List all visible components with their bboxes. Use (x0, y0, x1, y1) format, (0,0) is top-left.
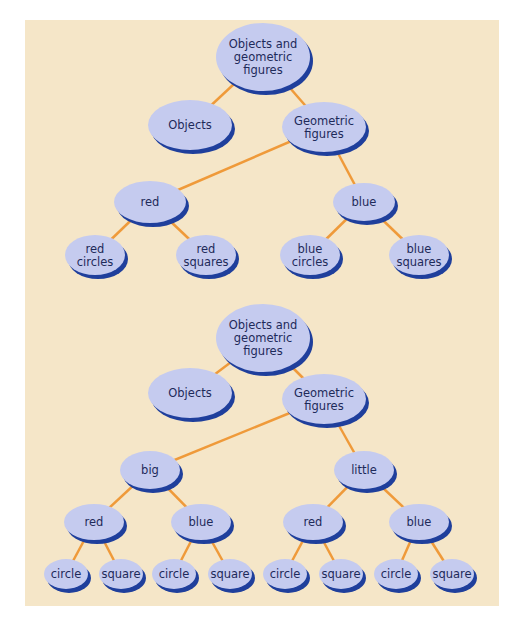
node-little-blue-square: square (430, 559, 477, 593)
node-label: squares (183, 255, 228, 269)
node-label: figures (304, 127, 343, 141)
node-label: big (141, 463, 159, 477)
node-label: little (351, 463, 377, 477)
node-label: figures (304, 399, 343, 413)
node-label: Objects (168, 386, 211, 400)
node-label: blue (189, 515, 214, 529)
node-label: square (101, 567, 140, 581)
node-red: red (114, 181, 189, 227)
node-label: geometric (234, 331, 292, 345)
node-label: square (432, 567, 471, 581)
node-big: big (120, 451, 183, 493)
node-geometric: Geometricfigures (282, 102, 369, 156)
node-label: Objects (168, 118, 211, 132)
node-root: Objects andgeometricfigures (216, 23, 313, 95)
node-little-red-square: square (319, 559, 366, 593)
node-geometric: Geometricfigures (282, 374, 369, 428)
node-root: Objects andgeometricfigures (216, 304, 313, 376)
node-blue-squares: bluesquares (389, 235, 452, 279)
node-big-red: red (64, 504, 127, 544)
node-label: geometric (234, 50, 292, 64)
node-blue-circles: bluecircles (280, 235, 343, 279)
node-label: Objects and (229, 318, 298, 332)
node-label: circle (270, 567, 301, 581)
node-label: blue (407, 242, 432, 256)
node-objects: Objects (148, 100, 235, 154)
node-label: blue (352, 195, 377, 209)
node-label: Geometric (294, 114, 354, 128)
node-label: figures (243, 344, 282, 358)
node-red-circles: redcircles (65, 235, 128, 279)
node-big-blue: blue (171, 504, 234, 544)
node-objects: Objects (148, 368, 235, 422)
node-little-red: red (283, 504, 346, 544)
node-label: square (210, 567, 249, 581)
node-label: red (141, 195, 160, 209)
node-label: square (321, 567, 360, 581)
node-little-blue: blue (389, 504, 452, 544)
node-label: red (304, 515, 323, 529)
node-label: circles (77, 255, 114, 269)
tree-color-first: Objects andgeometricfiguresObjectsGeomet… (65, 23, 452, 279)
node-label: blue (407, 515, 432, 529)
tree-size-first: Objects andgeometricfiguresObjectsGeomet… (44, 304, 477, 593)
node-label: circle (159, 567, 190, 581)
node-little-blue-circle: circle (374, 559, 421, 593)
hierarchy-diagrams: Objects andgeometricfiguresObjectsGeomet… (0, 0, 527, 632)
node-label: squares (396, 255, 441, 269)
node-label: Objects and (229, 37, 298, 51)
node-big-red-square: square (99, 559, 146, 593)
node-little-red-circle: circle (263, 559, 310, 593)
node-blue: blue (333, 183, 398, 225)
node-label: circle (381, 567, 412, 581)
node-label: red (85, 515, 104, 529)
node-label: circle (51, 567, 82, 581)
node-big-red-circle: circle (44, 559, 91, 593)
node-label: figures (243, 63, 282, 77)
node-label: Geometric (294, 386, 354, 400)
node-label: red (86, 242, 105, 256)
node-label: red (197, 242, 216, 256)
node-big-blue-circle: circle (152, 559, 199, 593)
node-little: little (334, 451, 397, 493)
node-big-blue-square: square (208, 559, 255, 593)
node-label: blue (298, 242, 323, 256)
node-red-squares: redsquares (176, 235, 239, 279)
node-label: circles (292, 255, 329, 269)
